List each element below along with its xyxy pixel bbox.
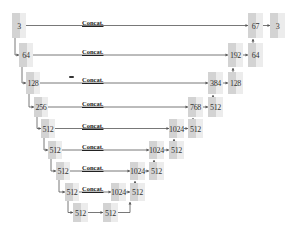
concat-label: Concat. [82, 164, 103, 171]
channel-count-label: 512 [48, 146, 62, 155]
channel-count-label: 3 [12, 21, 26, 30]
decoder-output-block-4: 512 [188, 119, 203, 138]
decoder-output-block-0: 3 [270, 13, 285, 38]
decoder-concat-block-2: 384 [208, 72, 223, 94]
encoder-block-1: 64 [19, 43, 33, 67]
decoder-output-block-6: 512 [149, 162, 164, 180]
concat-label: Concat. [82, 143, 103, 150]
channel-count-label: 1024 [111, 188, 126, 197]
concat-label: Concat. [82, 76, 103, 83]
decoder-concat-block-1: 192 [228, 43, 243, 67]
channel-count-label: 768 [188, 103, 203, 112]
decoder-output-block-7: 512 [130, 183, 145, 201]
encoder-block-2: 128 [26, 72, 40, 94]
encoder-block-3: 256 [34, 97, 48, 117]
encoder-block-0: 3 [12, 13, 26, 38]
concat-label: Concat. [82, 185, 103, 192]
channel-count-label: 512 [149, 167, 164, 176]
channel-count-label: 256 [34, 103, 48, 112]
concat-label: Concat. [82, 100, 103, 107]
concat-label: Concat. [82, 122, 103, 129]
channel-count-label: 128 [26, 79, 40, 88]
channel-count-label: 512 [103, 208, 118, 217]
bottleneck-block-0: 512 [73, 203, 88, 222]
channel-count-label: 512 [130, 188, 145, 197]
channel-count-label: 512 [208, 103, 223, 112]
bottleneck-block-1: 512 [103, 203, 118, 222]
encoder-block-5: 512 [48, 141, 62, 159]
channel-count-label: 64 [248, 51, 263, 60]
channel-count-label: 512 [169, 146, 184, 155]
unet-diagram: 364128256512512512512512512673Concat.192… [0, 0, 299, 234]
channel-count-label: 512 [73, 208, 88, 217]
channel-count-label: 384 [208, 79, 223, 88]
channel-count-label: 1024 [169, 124, 184, 133]
decoder-concat-block-4: 1024 [169, 119, 184, 138]
channel-count-label: 512 [65, 188, 79, 197]
channel-count-label: 64 [19, 51, 33, 60]
decoder-concat-block-0: 67 [248, 13, 263, 38]
decoder-output-block-5: 512 [169, 141, 184, 159]
channel-count-label: 1024 [130, 167, 145, 176]
channel-count-label: 3 [270, 21, 285, 30]
channel-count-label: 512 [188, 124, 203, 133]
decoder-concat-block-6: 1024 [130, 162, 145, 180]
encoder-block-7: 512 [65, 183, 79, 201]
channel-count-label: 512 [56, 167, 70, 176]
channel-count-label: 128 [228, 79, 243, 88]
channel-count-label: 512 [41, 124, 55, 133]
encoder-block-6: 512 [56, 162, 70, 180]
concat-label: Concat. [82, 48, 103, 55]
decoder-concat-block-7: 1024 [111, 183, 126, 201]
concat-label: Concat. [82, 19, 103, 26]
channel-count-label: 1024 [149, 146, 164, 155]
decoder-concat-block-3: 768 [188, 97, 203, 117]
artifact-mark [69, 76, 74, 78]
decoder-concat-block-5: 1024 [149, 141, 164, 159]
encoder-block-4: 512 [41, 119, 55, 138]
channel-count-label: 67 [248, 21, 263, 30]
channel-count-label: 192 [228, 51, 243, 60]
decoder-output-block-2: 128 [228, 72, 243, 94]
decoder-output-block-3: 512 [208, 97, 223, 117]
decoder-output-block-1: 64 [248, 43, 263, 67]
